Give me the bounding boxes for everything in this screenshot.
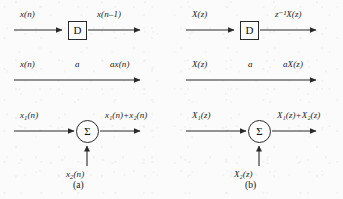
panel-b-caption: (b) — [245, 180, 256, 190]
a-multiplier-input-label: x(n) — [20, 60, 35, 69]
a-adder-input1-tail: (n) — [27, 110, 38, 120]
b-adder-input2-label: X₂(z) — [234, 170, 253, 179]
b-delay-block: D — [240, 21, 259, 40]
b-multiplier-output-label: aX(z) — [283, 60, 303, 69]
b-multiplier-input-label: X(z) — [192, 60, 207, 69]
b-delay-block-label: D — [246, 24, 254, 36]
a-delay-output-base: x(n — [97, 9, 109, 19]
a-delay-input-label: x(n) — [20, 10, 35, 19]
b-delay-input-label: X(z) — [192, 10, 207, 19]
panel-a-caption: (a) — [73, 180, 84, 190]
b-multiplier-gain-label: a — [248, 60, 253, 69]
a-adder-block: Σ — [76, 120, 99, 143]
b-delay-output-label: z⁻¹X(z) — [275, 10, 302, 19]
a-delay-block: D — [68, 21, 87, 40]
a-multiplier-gain-label: a — [75, 60, 80, 69]
a-delay-output-label: x(n–1) — [97, 10, 121, 19]
a-adder-output-label: x₁(n)+x₂(n) — [105, 111, 147, 120]
b-adder-output-label: X₁(z)+X₂(z) — [277, 111, 320, 120]
a-adder-input2-tail: (n) — [73, 169, 84, 179]
b-adder-block: Σ — [248, 120, 271, 143]
dsp-building-blocks-figure: x(n) D x(n–1) x(n) a ax(n) x1(n) Σ x₁(n)… — [0, 0, 343, 199]
b-adder-sigma-symbol: Σ — [256, 125, 262, 137]
a-adder-input1-label: x1(n) — [20, 111, 38, 121]
b-adder-input1-label: X₁(z) — [192, 111, 211, 120]
wire-layer — [0, 0, 343, 199]
a-multiplier-output-label: ax(n) — [110, 60, 130, 69]
a-delay-output-tail: 1) — [113, 9, 121, 19]
a-adder-sigma-symbol: Σ — [84, 125, 90, 137]
a-adder-input2-label: x2(n) — [66, 170, 84, 180]
a-delay-block-label: D — [74, 24, 82, 36]
